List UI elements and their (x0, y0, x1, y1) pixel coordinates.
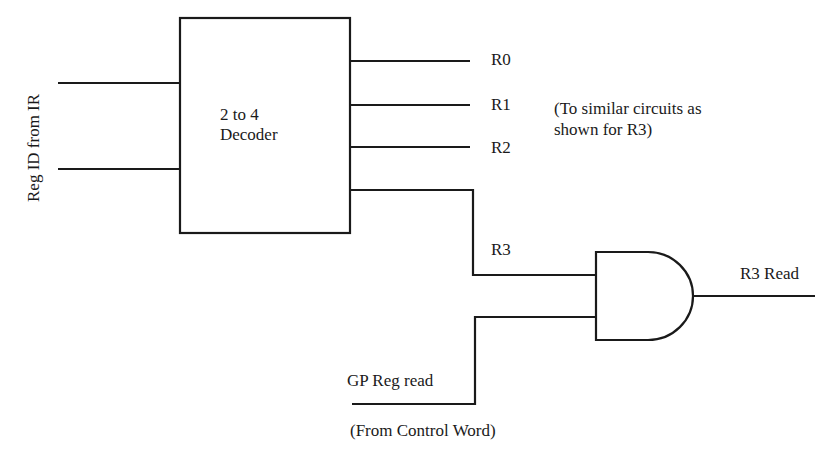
gate-output-label: R3 Read (740, 264, 799, 284)
output-label-r3: R3 (491, 240, 511, 260)
and-gate (596, 252, 693, 340)
note-line1: (To similar circuits as (554, 99, 702, 119)
decoder-label-line2: Decoder (220, 125, 278, 145)
output-wire-r3 (350, 190, 596, 275)
control-label: GP Reg read (347, 371, 433, 391)
output-label-r1: R1 (491, 95, 511, 115)
decoder-label-line1: 2 to 4 (220, 105, 259, 125)
output-label-r0: R0 (491, 50, 511, 70)
control-source-label: (From Control Word) (350, 421, 496, 441)
output-label-r2: R2 (491, 138, 511, 158)
note-line2: shown for R3) (554, 120, 652, 140)
inputs-label: Reg ID from IR (24, 94, 44, 202)
